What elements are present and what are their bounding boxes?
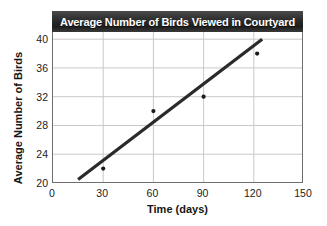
- x-tick-label: 120: [233, 187, 273, 199]
- data-point-marker: [202, 95, 206, 99]
- x-axis-tick-labels: 0306090120150: [52, 187, 303, 201]
- plot-svg: [53, 32, 303, 183]
- x-tick-label: 0: [32, 187, 72, 199]
- x-tick-label: 30: [82, 187, 122, 199]
- plot-area: [52, 32, 303, 183]
- y-tick-label: 24: [2, 148, 48, 160]
- chart-figure: Average Number of Birds Average Number o…: [0, 0, 327, 226]
- chart-title-band: Average Number of Birds Viewed in Courty…: [52, 11, 303, 32]
- data-points: [101, 51, 259, 170]
- y-axis-tick-labels: 202428323640: [0, 32, 48, 183]
- data-point-marker: [151, 109, 155, 113]
- x-tick-label: 150: [283, 187, 323, 199]
- x-tick-label: 60: [132, 187, 172, 199]
- y-tick-label: 28: [2, 119, 48, 131]
- x-tick-label: 90: [183, 187, 223, 199]
- y-tick-label: 32: [2, 91, 48, 103]
- y-tick-label: 40: [2, 33, 48, 45]
- data-point-marker: [101, 167, 105, 171]
- x-axis-title: Time (days): [52, 203, 303, 215]
- y-tick-label: 36: [2, 62, 48, 74]
- trend-line-segment: [78, 39, 262, 179]
- data-point-marker: [255, 51, 259, 55]
- gridlines: [53, 32, 303, 183]
- chart-title: Average Number of Birds Viewed in Courty…: [60, 16, 295, 28]
- trend-line: [78, 39, 262, 179]
